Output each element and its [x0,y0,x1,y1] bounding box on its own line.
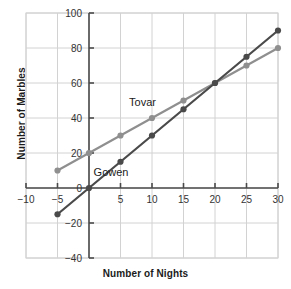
x-tick-label: 25 [241,194,253,205]
data-point [117,159,123,165]
data-point [243,62,249,68]
x-tick-label: 30 [272,194,284,205]
data-point [54,211,60,217]
data-point [275,27,281,33]
chart-container: Number of Marbles Number of Nights −10−5… [0,0,291,289]
x-tick-label: 5 [118,194,124,205]
data-point [54,167,60,173]
data-point [117,132,123,138]
data-point [149,115,155,121]
y-tick-label: −40 [65,253,82,264]
x-tick-label: 20 [209,194,221,205]
data-point [212,80,218,86]
x-tick-label: 15 [178,194,190,205]
data-point [86,150,92,156]
series-label-gowen: Gowen [94,166,129,178]
data-point [149,132,155,138]
data-point [180,106,186,112]
x-tick-label: 10 [146,194,158,205]
chart-plot: −10−551015202530−40−20020406080100 Tovar… [0,0,291,289]
x-tick-label: −10 [18,194,35,205]
y-tick-label: 40 [71,113,83,124]
data-point [180,97,186,103]
y-tick-label: −20 [65,218,82,229]
y-tick-label: 0 [76,183,82,194]
y-tick-label: 60 [71,78,83,89]
y-tick-label: 100 [65,8,82,19]
data-point [275,45,281,51]
data-point [86,185,92,191]
data-point [243,54,249,60]
series-label-tovar: Tovar [129,96,156,108]
y-tick-label: 80 [71,43,83,54]
x-tick-label: −5 [52,194,64,205]
